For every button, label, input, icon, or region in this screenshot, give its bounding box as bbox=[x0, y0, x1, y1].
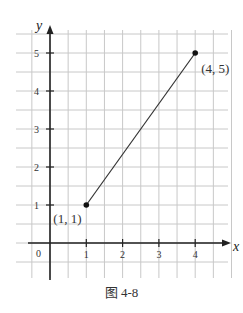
axis-labels: 123412345 bbox=[34, 48, 198, 261]
data-point bbox=[84, 202, 90, 208]
x-axis-label: x bbox=[232, 239, 240, 254]
point-annotations: (1, 1)(4, 5) bbox=[53, 61, 229, 226]
coordinate-plot: 123412345 x y 0 (1, 1)(4, 5) bbox=[0, 0, 243, 313]
point-label: (4, 5) bbox=[201, 61, 229, 76]
grid-lines bbox=[16, 30, 232, 278]
point-label: (1, 1) bbox=[53, 211, 81, 226]
y-tick-label: 4 bbox=[34, 86, 39, 97]
x-tick-label: 1 bbox=[84, 249, 89, 260]
x-axis-arrow-icon bbox=[222, 240, 231, 247]
y-axis-label: y bbox=[34, 18, 43, 33]
y-tick-label: 2 bbox=[34, 162, 39, 173]
origin-label: 0 bbox=[36, 248, 41, 259]
figure-caption: 图 4-8 bbox=[0, 282, 243, 301]
y-tick-label: 5 bbox=[34, 48, 39, 59]
y-tick-label: 3 bbox=[34, 124, 39, 135]
x-tick-label: 3 bbox=[156, 249, 161, 260]
x-tick-label: 4 bbox=[193, 249, 198, 260]
y-axis-arrow-icon bbox=[47, 25, 54, 34]
data-point bbox=[192, 50, 198, 56]
y-tick-label: 1 bbox=[34, 200, 39, 211]
x-tick-label: 2 bbox=[120, 249, 125, 260]
